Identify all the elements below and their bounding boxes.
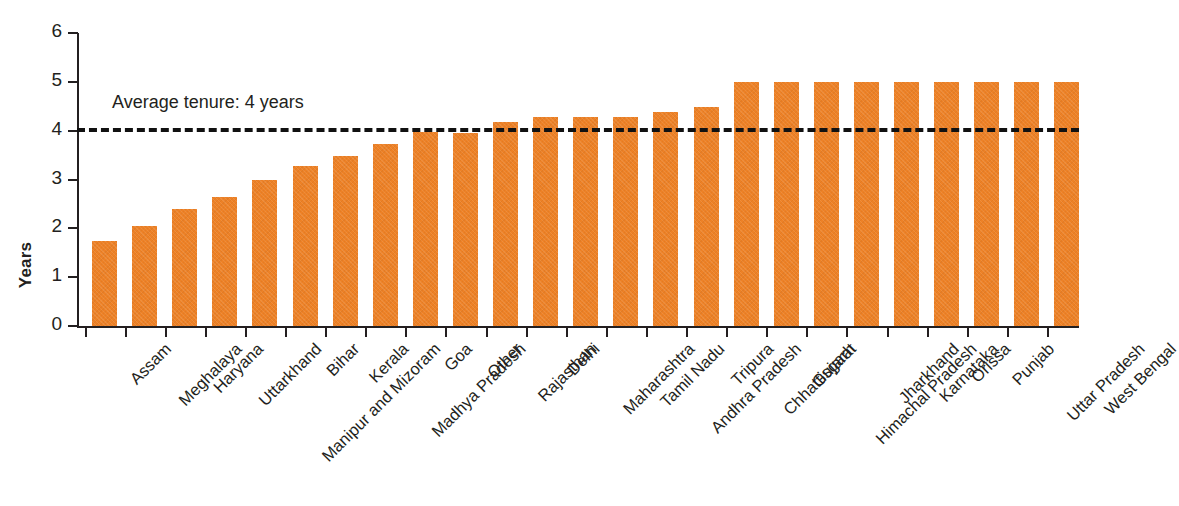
x-axis-category-label: Goa — [441, 340, 475, 374]
bar — [734, 82, 759, 326]
x-axis-category-label-wrapper: Assam — [126, 340, 173, 387]
y-tick-label-6: 6 — [22, 21, 62, 40]
x-tick-20 — [887, 328, 889, 337]
y-tick-label-2: 2 — [22, 216, 62, 235]
bar — [252, 180, 277, 327]
y-tick-label-0: 0 — [22, 314, 62, 333]
x-tick-24 — [1047, 328, 1049, 337]
bar — [453, 133, 478, 326]
bar — [653, 112, 678, 326]
bar — [533, 117, 558, 326]
y-tick-label-5: 5 — [22, 70, 62, 89]
x-tick-2 — [165, 328, 167, 337]
x-axis-category-label: Delhi — [564, 340, 602, 378]
x-axis-line — [77, 326, 1079, 328]
x-axis-category-label: Himachal Pradesh — [873, 340, 980, 447]
y-tick-label-1: 1 — [22, 265, 62, 284]
bar — [92, 241, 117, 326]
average-tenure-label: Average tenure: 4 years — [112, 92, 304, 113]
x-tick-0 — [85, 328, 87, 337]
bar — [413, 132, 438, 326]
x-tick-4 — [245, 328, 247, 337]
x-axis-category-label: Bihar — [323, 340, 362, 379]
x-tick-16 — [726, 328, 728, 337]
y-tick-6 — [68, 32, 78, 34]
average-tenure-line — [77, 128, 1079, 132]
x-axis-category-label: Assam — [126, 340, 173, 387]
y-tick-5 — [68, 81, 78, 83]
x-tick-1 — [125, 328, 127, 337]
x-axis-category-label-wrapper: Uttarkhand — [255, 340, 324, 409]
bar — [293, 166, 318, 326]
x-tick-22 — [967, 328, 969, 337]
x-axis-category-label: Punjab — [1009, 340, 1057, 388]
bar — [814, 82, 839, 326]
x-tick-11 — [526, 328, 528, 337]
x-axis-category-label: Uttarkhand — [255, 340, 324, 409]
bar — [894, 82, 919, 326]
x-tick-14 — [646, 328, 648, 337]
y-tick-0 — [68, 325, 78, 327]
bar — [774, 82, 799, 326]
bar — [212, 197, 237, 326]
x-axis-category-label-wrapper: Himachal Pradesh — [873, 340, 980, 447]
x-tick-8 — [405, 328, 407, 337]
bar — [573, 117, 598, 326]
x-tick-23 — [1007, 328, 1009, 337]
y-tick-1 — [68, 276, 78, 278]
x-tick-3 — [205, 328, 207, 337]
bar — [613, 117, 638, 326]
bar — [1054, 82, 1079, 326]
x-tick-21 — [927, 328, 929, 337]
bar — [132, 226, 157, 326]
bar — [934, 82, 959, 326]
x-tick-12 — [566, 328, 568, 337]
x-axis-category-label-wrapper: Goa — [441, 340, 475, 374]
x-axis-category-label: Gujarat — [809, 340, 859, 390]
x-axis-category-label-wrapper: Gujarat — [809, 340, 859, 390]
bar — [493, 122, 518, 326]
bar — [694, 107, 719, 326]
x-tick-18 — [806, 328, 808, 337]
x-tick-5 — [285, 328, 287, 337]
x-tick-7 — [365, 328, 367, 337]
x-tick-9 — [445, 328, 447, 337]
x-tick-15 — [686, 328, 688, 337]
bar — [974, 82, 999, 326]
y-tick-3 — [68, 179, 78, 181]
bar — [333, 156, 358, 326]
y-tick-label-3: 3 — [22, 168, 62, 187]
x-tick-6 — [325, 328, 327, 337]
x-tick-10 — [486, 328, 488, 337]
bar — [1014, 82, 1039, 326]
x-axis-category-label-wrapper: Delhi — [564, 340, 602, 378]
x-tick-17 — [766, 328, 768, 337]
bar — [854, 82, 879, 326]
bar — [172, 209, 197, 326]
x-axis-category-label-wrapper: Punjab — [1009, 340, 1057, 388]
x-tick-13 — [606, 328, 608, 337]
bar — [373, 144, 398, 326]
y-tick-2 — [68, 227, 78, 229]
x-axis-category-label-wrapper: Bihar — [323, 340, 362, 379]
y-tick-label-4: 4 — [22, 119, 62, 138]
x-tick-19 — [846, 328, 848, 337]
